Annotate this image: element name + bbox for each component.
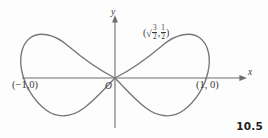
lemniscate-figure (0, 0, 268, 138)
paren-close: ) (166, 27, 169, 38)
fraction-root-three-halves: 32 (152, 24, 157, 40)
left-intercept-label: (−1,0) (12, 80, 38, 91)
radical-icon: √ (146, 29, 152, 39)
lemniscate-left-lobe (21, 34, 115, 116)
x-axis-label: x (248, 68, 252, 78)
right-intercept-label: (1, 0) (196, 80, 219, 91)
figure-number: 10.5 (236, 120, 263, 132)
x-axis-arrow-icon (239, 75, 247, 81)
max-point-label: (√32,12) (143, 24, 169, 40)
y-axis-label: y (111, 8, 115, 18)
fraction-one-half: 12 (161, 24, 166, 40)
origin-label: O (105, 82, 112, 92)
lemniscate-right-lobe (115, 34, 209, 116)
figure-page: x y O (−1,0) (1, 0) (√32,12) 10.5 (0, 0, 268, 138)
